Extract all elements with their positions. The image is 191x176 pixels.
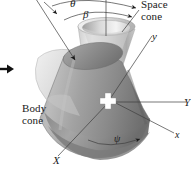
label-theta: θ bbox=[70, 0, 76, 10]
figure-graphics bbox=[0, 0, 191, 176]
space-body-cone-figure: Space cone Body cone θ β ψ y x Y X bbox=[0, 0, 191, 176]
label-axis-y-lower: y bbox=[152, 31, 157, 43]
label-body-cone: Body cone bbox=[22, 103, 46, 126]
theta-arc bbox=[52, 0, 136, 8]
label-axis-Y-upper: Y bbox=[184, 97, 190, 109]
label-beta: β bbox=[83, 9, 89, 21]
left-direction-arrow bbox=[0, 65, 14, 74]
label-axis-x-lower: x bbox=[175, 130, 180, 141]
theta-arrow-line bbox=[44, 2, 57, 14]
label-axis-X-upper: X bbox=[53, 155, 60, 167]
label-space-cone: Space cone bbox=[141, 0, 168, 22]
label-psi: ψ bbox=[114, 134, 120, 145]
